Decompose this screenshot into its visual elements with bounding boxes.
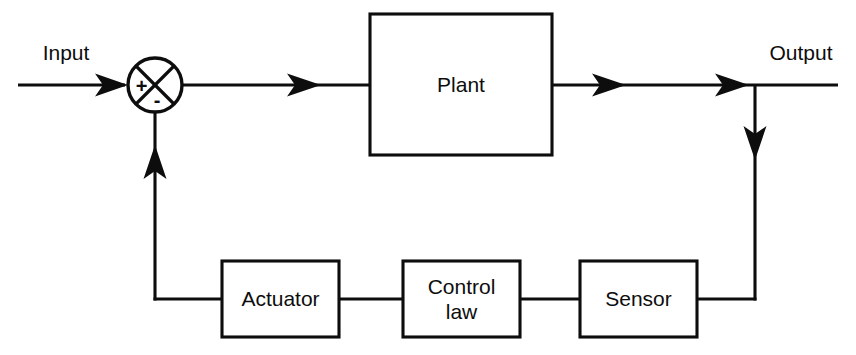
- signal-sum-to-plant: [182, 74, 370, 97]
- actuator-label: Actuator: [241, 287, 319, 310]
- block-diagram-svg: + - Plant Actuator Control law Sensor In…: [0, 0, 856, 355]
- control-law-label-line1: Control: [428, 275, 496, 298]
- signal-actuator-to-sum: [144, 112, 223, 301]
- output-label: Output: [769, 41, 832, 64]
- signal-input-to-sum: [18, 74, 128, 97]
- block-actuator[interactable]: Actuator: [222, 261, 339, 337]
- block-sensor[interactable]: Sensor: [580, 261, 697, 337]
- control-law-label-line2: law: [446, 300, 478, 323]
- signal-output-to-sensor: [697, 85, 767, 301]
- block-plant[interactable]: Plant: [370, 14, 552, 155]
- signal-plant-to-output: [552, 74, 838, 97]
- summing-plus-sign: +: [136, 75, 148, 97]
- summing-junction[interactable]: + -: [128, 58, 182, 112]
- summing-minus-sign: -: [154, 89, 161, 111]
- sensor-label: Sensor: [605, 287, 672, 310]
- block-diagram-canvas: + - Plant Actuator Control law Sensor In…: [0, 0, 856, 355]
- input-label: Input: [43, 41, 90, 64]
- plant-label: Plant: [437, 73, 485, 96]
- block-control-law[interactable]: Control law: [403, 261, 520, 337]
